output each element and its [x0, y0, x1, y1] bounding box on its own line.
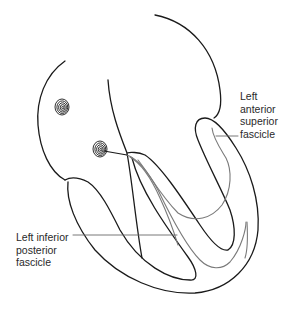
atrioventricular-node-spiral-icon [93, 141, 107, 157]
label-left-anterior-superior-fascicle: Left anterior superior fascicle [240, 90, 278, 140]
av-node-connector [104, 151, 127, 155]
right-atrium-outline [38, 61, 65, 180]
heart-outer-outline [155, 15, 221, 118]
left-anterior-fascicle [138, 128, 230, 219]
label-left-inferior-posterior-fascicle: Left inferior posterior fascicle [16, 231, 69, 269]
septum-line [108, 80, 142, 258]
heart-conduction-diagram [0, 0, 292, 334]
sinoatrial-node-spiral-icon [55, 99, 69, 115]
